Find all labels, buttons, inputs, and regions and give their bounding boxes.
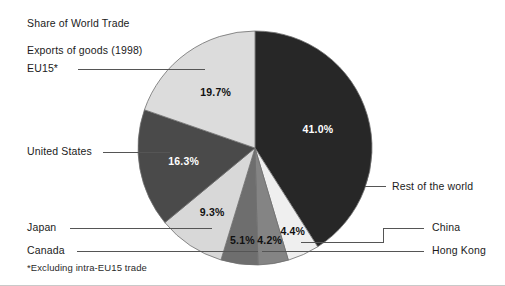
callout-label-united-states: United States: [27, 145, 92, 157]
callout-label-hong-kong: Hong Kong: [432, 244, 486, 256]
pie-value-label-japan: 9.3%: [200, 206, 225, 218]
callout-label-rest-of-the-world: Rest of the world: [392, 180, 473, 192]
callout-label-eu15: EU15*: [27, 62, 58, 74]
pie-slice-group: [138, 31, 372, 265]
pie-value-label-rest-of-the-world: 41.0%: [303, 123, 334, 135]
pie-value-label-united-states: 16.3%: [168, 155, 199, 167]
pie-value-label-eu15: 19.7%: [200, 86, 231, 98]
pie-value-label-canada: 5.1%: [230, 234, 255, 246]
pie-value-label-china: 4.4%: [280, 225, 305, 237]
pie-value-label-hong-kong: 4.2%: [257, 234, 282, 246]
pie-chart: 41.0%4.4%4.2%5.1%9.3%16.3%19.7%: [0, 0, 505, 286]
callout-label-china: China: [432, 221, 460, 233]
chart-footnote: *Excluding intra-EU15 trade: [27, 262, 147, 273]
callout-label-japan: Japan: [27, 221, 56, 233]
chart-figure: Share of World Trade Exports of goods (1…: [0, 0, 505, 286]
callout-label-canada: Canada: [27, 244, 65, 256]
